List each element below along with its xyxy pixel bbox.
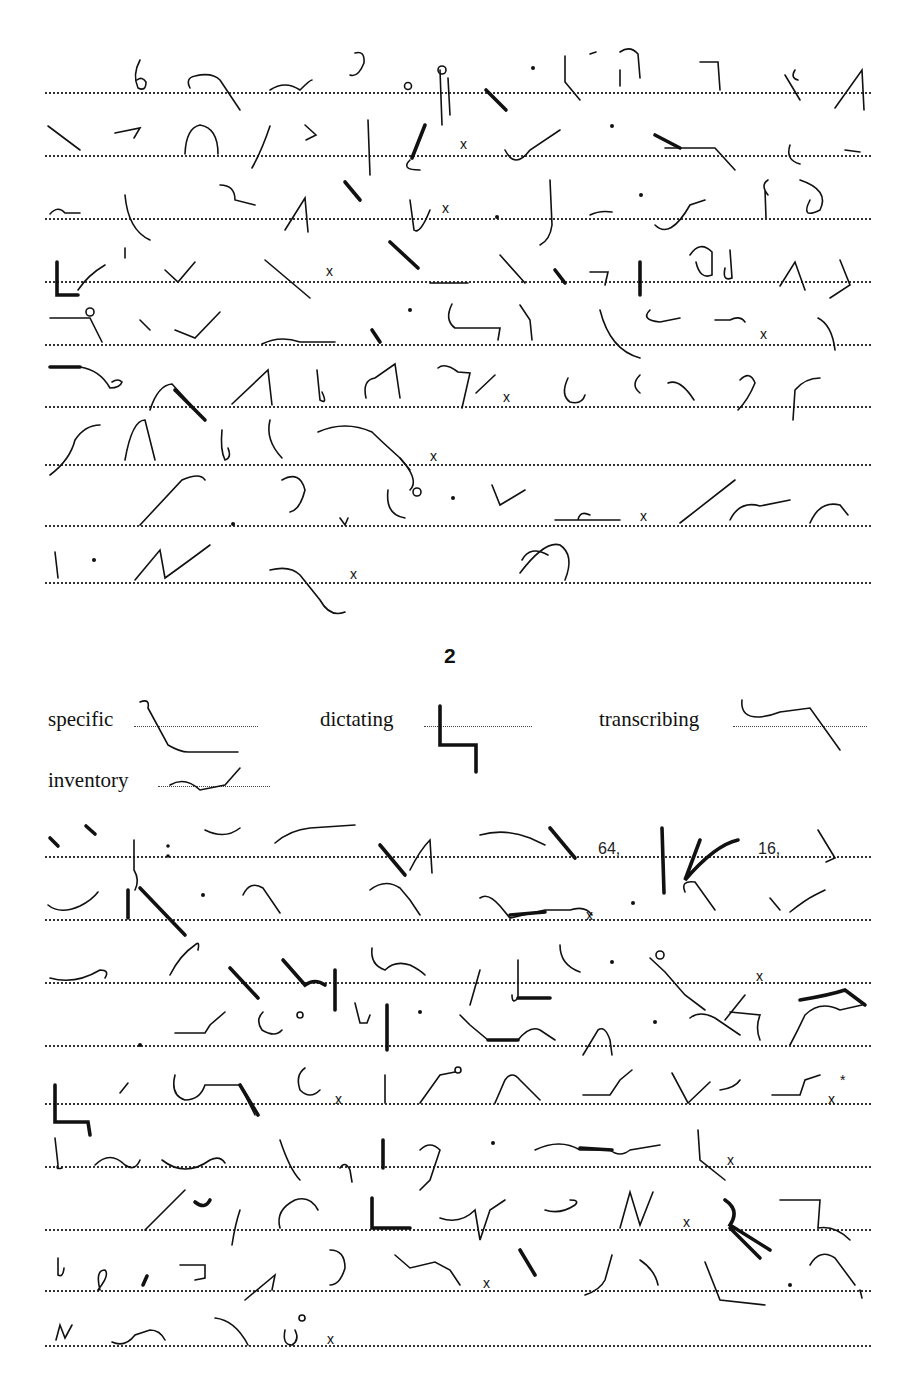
shorthand-page: 2 specific dictating transcribing invent… (0, 0, 914, 1384)
shorthand-strokes (0, 0, 914, 1384)
